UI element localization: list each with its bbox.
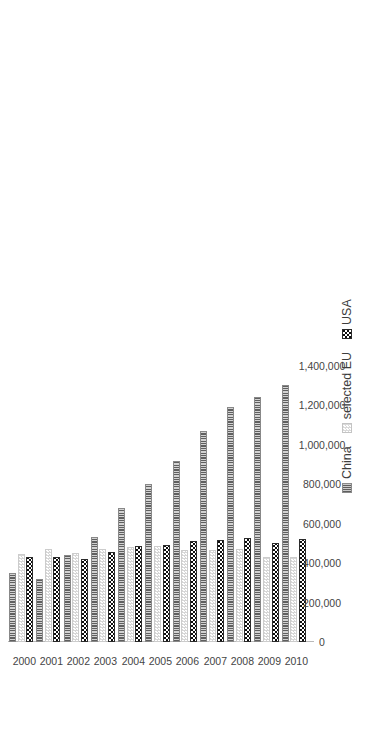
category-tick-label-2003: 2003	[87, 655, 117, 667]
bar-china-2008[interactable]	[227, 407, 234, 642]
bar-eu-2005[interactable]	[154, 547, 161, 643]
category-tick-label-2001: 2001	[33, 655, 63, 667]
legend-item-usa[interactable]: USA	[340, 299, 354, 339]
bar-china-2004[interactable]	[118, 508, 125, 642]
bar-china-2006[interactable]	[173, 461, 180, 642]
bar-group	[145, 346, 170, 642]
bar-china-2001[interactable]	[36, 579, 43, 642]
bar-china-2003[interactable]	[91, 537, 98, 642]
bar-usa-2008[interactable]	[244, 538, 251, 642]
rotated-chart-canvas: China selected EU USA 0200,000400,000600…	[0, 0, 392, 730]
value-tick-label: 0	[282, 636, 362, 648]
bar-eu-2002[interactable]	[72, 553, 79, 642]
bar-usa-2009[interactable]	[272, 543, 279, 642]
bar-usa-2002[interactable]	[81, 559, 88, 642]
category-tick-label-2005: 2005	[142, 655, 172, 667]
value-tick-label: 200,000	[282, 597, 362, 609]
bar-group	[173, 346, 198, 642]
bar-group	[227, 346, 252, 642]
bar-group	[9, 346, 34, 642]
value-tick-label: 400,000	[282, 557, 362, 569]
bar-group	[64, 346, 89, 642]
bar-eu-2000[interactable]	[18, 554, 25, 642]
value-tick-label: 1,000,000	[282, 439, 362, 451]
chart-area: China selected EU USA 0200,000400,000600…	[0, 0, 392, 730]
category-tick-label-2006: 2006	[169, 655, 199, 667]
category-tick-label-2009: 2009	[251, 655, 281, 667]
legend-swatch-usa-icon	[342, 329, 352, 339]
bar-eu-2007[interactable]	[209, 550, 216, 642]
category-tick-label-2000: 2000	[6, 655, 36, 667]
bar-eu-2006[interactable]	[181, 550, 188, 642]
bar-usa-2003[interactable]	[108, 552, 115, 642]
bar-usa-2004[interactable]	[135, 546, 142, 642]
bar-group	[200, 346, 225, 642]
bar-china-2005[interactable]	[145, 484, 152, 642]
category-tick-label-2008: 2008	[224, 655, 254, 667]
value-tick-label: 800,000	[282, 478, 362, 490]
category-tick-label-2002: 2002	[60, 655, 90, 667]
bar-eu-2003[interactable]	[99, 549, 106, 642]
bar-china-2009[interactable]	[254, 397, 261, 642]
chart-legend: China selected EU USA	[340, 299, 354, 493]
bar-group	[254, 346, 279, 642]
bar-china-2002[interactable]	[64, 555, 71, 642]
legend-label-china: China	[340, 446, 354, 479]
category-tick-label-2004: 2004	[115, 655, 145, 667]
bar-usa-2006[interactable]	[190, 541, 197, 642]
bar-eu-2001[interactable]	[45, 549, 52, 642]
bar-usa-2007[interactable]	[217, 540, 224, 642]
value-tick-label: 600,000	[282, 518, 362, 530]
bar-group	[118, 346, 143, 642]
category-tick-label-2010: 2010	[278, 655, 308, 667]
category-tick-label-2007: 2007	[197, 655, 227, 667]
value-tick-label: 1,200,000	[282, 399, 362, 411]
legend-swatch-selected-eu-icon	[342, 423, 352, 433]
bar-usa-2010[interactable]	[299, 539, 306, 642]
bar-china-2000[interactable]	[9, 573, 16, 642]
bar-usa-2005[interactable]	[163, 545, 170, 642]
bar-usa-2001[interactable]	[53, 557, 60, 642]
bar-china-2007[interactable]	[200, 431, 207, 642]
bar-eu-2008[interactable]	[236, 549, 243, 642]
value-tick-label: 1,400,000	[282, 360, 362, 372]
bar-group	[36, 346, 61, 642]
bar-usa-2000[interactable]	[26, 557, 33, 642]
plot-area	[8, 346, 308, 642]
bar-group	[91, 346, 116, 642]
bar-eu-2004[interactable]	[127, 547, 134, 642]
bar-eu-2009[interactable]	[263, 557, 270, 642]
legend-label-usa: USA	[340, 299, 354, 325]
